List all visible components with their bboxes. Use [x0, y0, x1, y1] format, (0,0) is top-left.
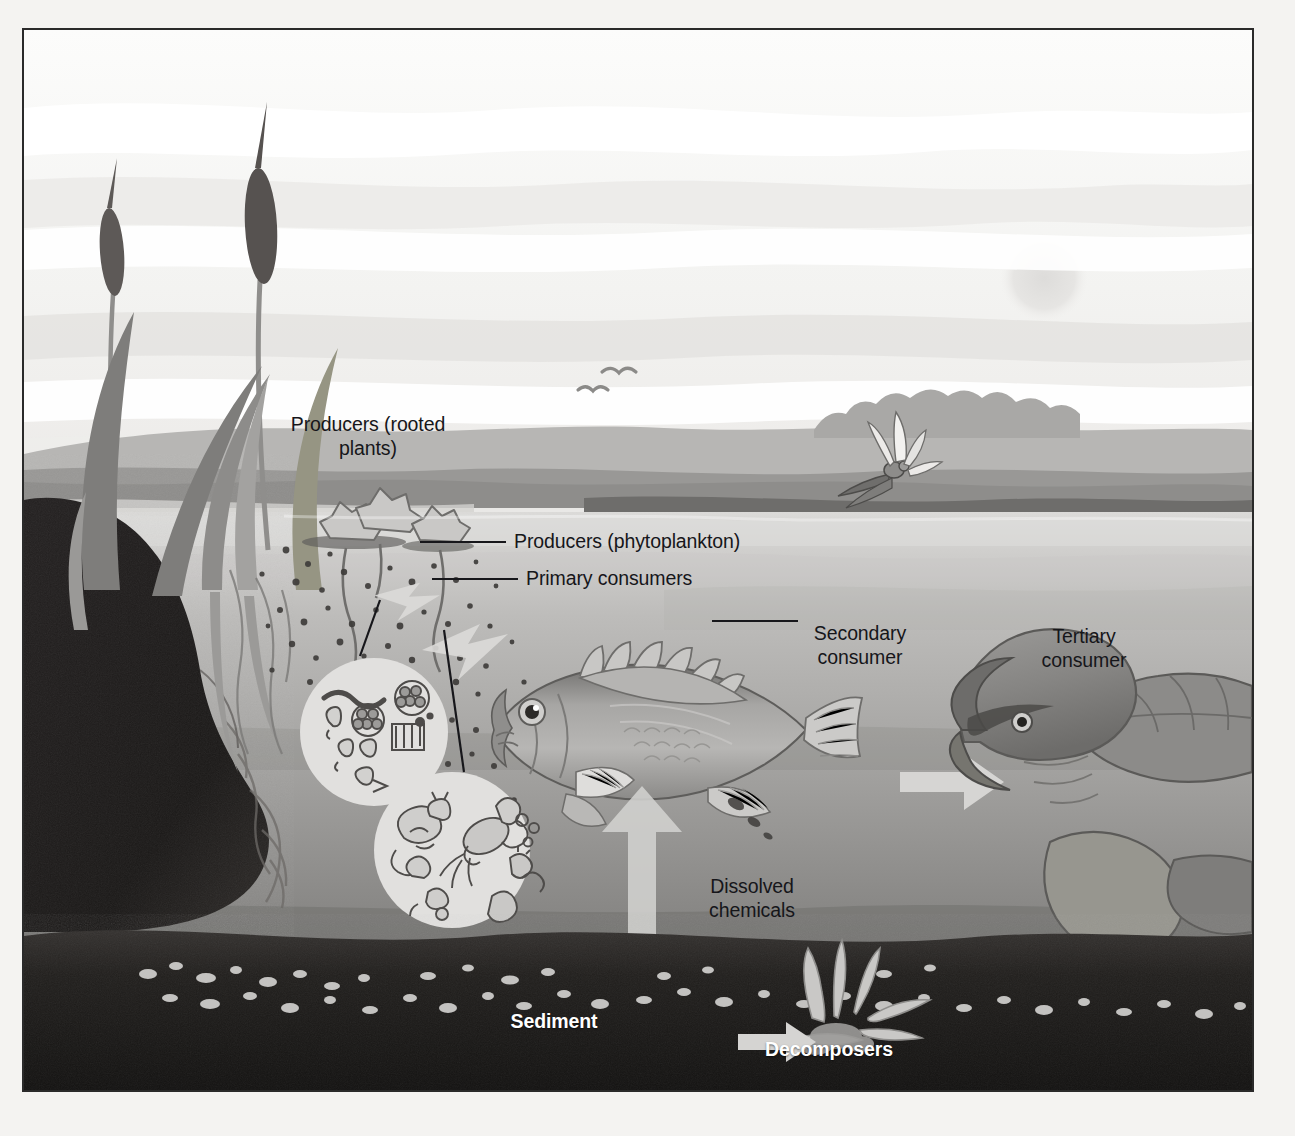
label-tertiary-consumer: Tertiary consumer: [994, 625, 1174, 673]
label-sediment: Sediment: [454, 1010, 654, 1034]
leader-line-primary-consumers: [432, 578, 518, 580]
label-producers-phytoplankton: Producers (phytoplankton): [514, 530, 740, 554]
pond-scene: Producers (rooted plants) Producers (phy…: [24, 30, 1252, 1090]
label-dissolved-chemicals: Dissolved chemicals: [672, 875, 832, 923]
scene-artwork: [24, 30, 1252, 1090]
page-root: Producers (rooted plants) Producers (phy…: [0, 0, 1295, 1136]
label-decomposers: Decomposers: [714, 1038, 944, 1062]
label-producers-rooted-plants: Producers (rooted plants): [268, 413, 468, 461]
leader-line-phytoplankton: [420, 541, 506, 543]
ecosystem-figure: Producers (rooted plants) Producers (phy…: [22, 28, 1254, 1092]
label-primary-consumers: Primary consumers: [526, 567, 692, 591]
label-secondary-consumer: Secondary consumer: [770, 622, 950, 670]
